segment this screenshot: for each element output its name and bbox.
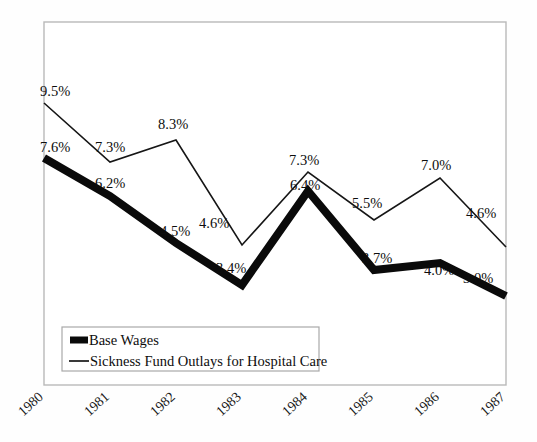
line-chart: 9.5% 7.3% 8.3% 4.6% 7.3% 5.5% 7.0% 4.6% …	[0, 0, 537, 442]
x-tick-1987: 1987	[477, 389, 508, 419]
x-tick-1983: 1983	[213, 389, 244, 419]
point-label-sickness-1985: 5.5%	[352, 195, 382, 211]
point-label-base-wages-1986: 4.0%	[424, 262, 454, 278]
point-label-sickness-1982: 8.3%	[158, 116, 188, 132]
point-label-base-wages-1982: 4.5%	[160, 223, 190, 239]
point-label-sickness-1981: 7.3%	[95, 139, 125, 155]
x-tick-1980: 1980	[15, 389, 46, 419]
legend-item-sickness-fund-outlays[interactable]: Sickness Fund Outlays for Hospital Care	[69, 353, 327, 369]
point-label-sickness-1980: 9.5%	[40, 83, 70, 99]
x-tick-1985: 1985	[345, 389, 376, 419]
point-label-base-wages-1987: 3.0%	[463, 270, 493, 286]
point-label-sickness-1986: 7.0%	[421, 157, 451, 173]
x-tick-1982: 1982	[147, 389, 178, 419]
x-axis-labels: 1980 1981 1982 1983 1984 1985 1986 1987	[15, 389, 508, 419]
legend-label-sickness-fund-outlays: Sickness Fund Outlays for Hospital Care	[90, 353, 327, 369]
chart-container: 9.5% 7.3% 8.3% 4.6% 7.3% 5.5% 7.0% 4.6% …	[0, 0, 537, 442]
point-label-base-wages-1981: 6.2%	[95, 175, 125, 191]
x-tick-1986: 1986	[411, 389, 442, 419]
point-label-base-wages-1985: 3.7%	[362, 250, 392, 266]
point-label-sickness-1987: 4.6%	[466, 205, 496, 221]
point-label-base-wages-1984: 6.4%	[290, 177, 320, 193]
legend-label-base-wages: Base Wages	[89, 332, 159, 348]
point-label-base-wages-1980: 7.6%	[40, 139, 70, 155]
legend: Base Wages Sickness Fund Outlays for Hos…	[62, 327, 327, 371]
point-label-base-wages-1983: 3.4%	[216, 260, 246, 276]
point-label-sickness-1984: 7.3%	[289, 152, 319, 168]
x-tick-1981: 1981	[81, 389, 112, 419]
point-label-sickness-1983: 4.6%	[199, 215, 229, 231]
x-tick-1984: 1984	[279, 389, 310, 419]
